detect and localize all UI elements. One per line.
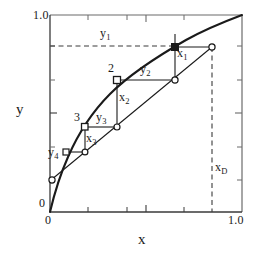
stage-3-marker	[82, 124, 89, 131]
dashed-guides	[50, 46, 212, 212]
y-axis-max-label: 1.0	[33, 8, 49, 23]
op-point-bottom	[49, 177, 55, 183]
label-y3: y3	[96, 110, 106, 125]
label-y2: y2	[140, 62, 150, 77]
label-x1: x1	[177, 46, 187, 61]
y-axis-min-label: 0	[39, 196, 45, 211]
stage-number-3: 3	[74, 110, 80, 125]
stage-number-2: 2	[108, 61, 114, 76]
op-point-2	[172, 77, 178, 83]
stage-2-marker	[114, 77, 121, 84]
label-y4: y4	[48, 145, 58, 160]
stage-4-marker	[63, 149, 69, 155]
label-y1: y1	[100, 26, 110, 41]
label-x2: x2	[119, 90, 129, 105]
y-axis-title: y	[16, 101, 24, 118]
x-axis-max-label: 1.0	[228, 213, 244, 228]
figure-canvas: 1.0 0 0 1.0 y x y1 y2 y3 y4 x1 x2 x3 xD …	[0, 0, 260, 259]
x-axis-title: x	[138, 231, 146, 248]
op-point-1	[209, 44, 215, 50]
op-point-4	[82, 149, 88, 155]
label-x3: x3	[86, 131, 96, 146]
op-point-3	[114, 124, 120, 130]
label-xd: xD	[215, 160, 227, 175]
x-axis-min-label: 0	[45, 213, 51, 228]
mccabe-thiele-plot	[0, 0, 260, 259]
